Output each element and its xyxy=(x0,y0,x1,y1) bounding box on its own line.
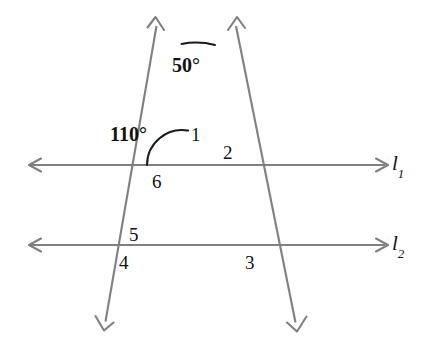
line-label-l1-base: l xyxy=(392,151,398,175)
angle-label-110-degrees: 110° xyxy=(110,124,147,144)
line-label-l1-subscript: 1 xyxy=(398,166,405,181)
angle-label-6: 6 xyxy=(152,172,162,191)
angle-label-3: 3 xyxy=(245,253,255,272)
transversal-b-segment xyxy=(236,26,296,323)
line-label-l2: l2 xyxy=(392,233,404,257)
transversal-b xyxy=(228,17,307,332)
angle-arc-110-degrees xyxy=(147,130,188,165)
transversal-b-bottom-arrowhead-icon xyxy=(287,317,307,332)
transversal-a-bottom-arrowhead-icon xyxy=(96,316,114,331)
line-label-l2-base: l xyxy=(392,231,398,255)
angle-arc-50-degrees xyxy=(182,43,216,45)
angle-label-1: 1 xyxy=(191,125,201,144)
geometry-diagram: 50° 110° 1 2 3 4 5 6 l1 l2 xyxy=(0,0,432,358)
diagram-canvas xyxy=(0,0,432,358)
line-l2 xyxy=(29,239,388,252)
line-label-l1: l1 xyxy=(392,153,404,177)
angle-label-5: 5 xyxy=(129,225,139,244)
angle-label-2: 2 xyxy=(223,143,233,162)
angle-label-50-degrees: 50° xyxy=(172,55,200,75)
transversal-a-segment xyxy=(106,26,157,322)
angle-label-4: 4 xyxy=(119,253,129,272)
line-label-l2-subscript: 2 xyxy=(398,246,405,261)
line-l1 xyxy=(29,159,388,172)
